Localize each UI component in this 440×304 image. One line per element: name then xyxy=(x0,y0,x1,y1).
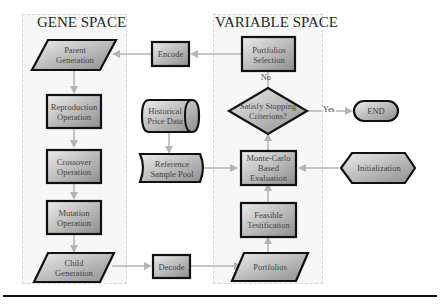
yes-edge-label: Yes xyxy=(323,105,335,114)
crossover-operation-node[interactable]: Crossover Operation xyxy=(50,150,98,183)
end-node[interactable]: END xyxy=(354,101,398,121)
historical-price-data-node[interactable]: Historical Price Data xyxy=(143,101,187,131)
encode-node[interactable]: Encode xyxy=(152,42,189,66)
portfolios-selection-node[interactable]: Portfolios Selection xyxy=(245,38,293,71)
portfolios-node[interactable]: Portfolios xyxy=(240,254,300,280)
satisfy-stopping-node[interactable]: Satisfy Stopping Criterions? xyxy=(237,99,299,123)
child-generation-node[interactable]: Child Generation xyxy=(50,255,98,281)
initialization-node[interactable]: Initialization xyxy=(345,153,413,183)
bottom-rule xyxy=(3,295,437,297)
feasible-testification-node[interactable]: Feasible Testification xyxy=(241,203,296,237)
no-edge-label: No xyxy=(261,73,271,82)
reproduction-operation-node[interactable]: Reproduction Operation xyxy=(47,95,101,128)
monte-carlo-node[interactable]: Monte-Carlo Based Evaluation xyxy=(241,151,296,185)
parent-generation-node[interactable]: Parent Generation xyxy=(50,42,100,68)
mutation-operation-node[interactable]: Mutation Operation xyxy=(50,201,98,234)
reference-sample-pool-node[interactable]: Reference Sample Pool xyxy=(143,155,201,182)
decode-node[interactable]: Decode xyxy=(153,255,190,278)
